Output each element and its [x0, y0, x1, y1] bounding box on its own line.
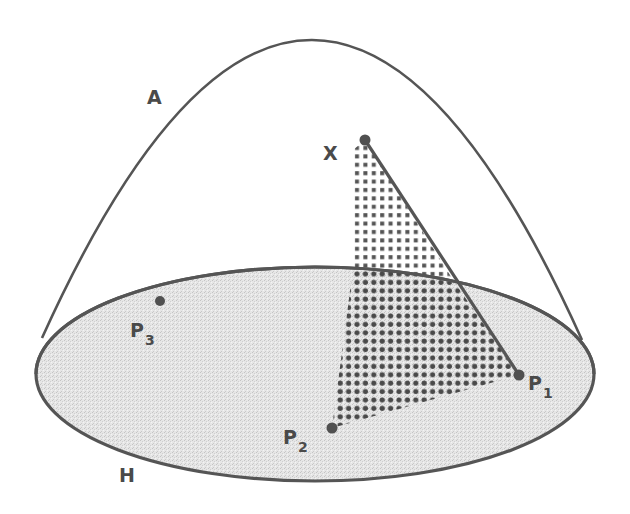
- point-p1: [514, 370, 525, 381]
- point-x: [360, 135, 371, 146]
- label-a: A: [147, 86, 162, 108]
- point-p2: [327, 423, 338, 434]
- point-p3: [155, 296, 165, 306]
- geometry-diagram: A X H P1 P2 P3: [0, 0, 630, 514]
- label-h: H: [119, 464, 135, 486]
- stippled-triangle-upper: [353, 140, 455, 283]
- label-x: X: [323, 142, 338, 164]
